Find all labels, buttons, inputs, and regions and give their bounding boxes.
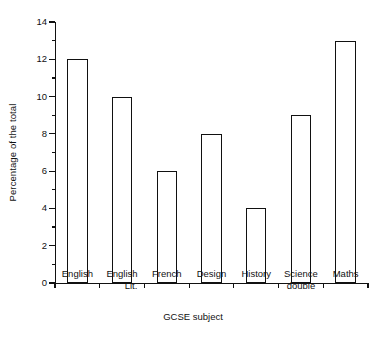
- y-axis-tick-minor: [52, 226, 56, 227]
- x-axis-tick-label-line: English: [62, 268, 93, 279]
- bar: [112, 97, 133, 283]
- bar: [201, 134, 222, 283]
- y-axis-tick-major: [49, 59, 55, 60]
- x-axis-tick-label-line: English: [106, 268, 137, 279]
- bar: [67, 59, 88, 283]
- x-axis-tick-label-line: Science: [284, 268, 318, 279]
- y-axis-tick-major: [49, 96, 55, 97]
- x-axis-tick: [54, 283, 55, 288]
- x-axis-title: GCSE subject: [0, 311, 386, 323]
- y-axis-tick-label: 10: [36, 92, 47, 102]
- y-axis-title: Percentage of the total: [6, 22, 20, 283]
- y-axis-tick-label: 0: [42, 278, 47, 288]
- x-axis-tick-label-line: French: [152, 268, 182, 279]
- y-axis-tick-minor: [52, 152, 56, 153]
- bar-chart-figure: Percentage of the total 02468101214 GCSE…: [0, 0, 386, 341]
- x-axis-tick-label: History: [234, 268, 279, 280]
- y-axis-tick-minor: [52, 264, 56, 265]
- y-axis-tick-minor: [52, 189, 56, 190]
- y-axis-tick-label: 6: [42, 166, 47, 176]
- x-axis-tick: [233, 283, 234, 288]
- y-axis-tick-label: 12: [36, 54, 47, 64]
- y-axis-tick-label: 14: [36, 17, 47, 27]
- x-axis-tick-label: EnglishLit.: [100, 268, 145, 291]
- y-axis-tick-label: 8: [42, 129, 47, 139]
- y-axis-tick-minor: [52, 77, 56, 78]
- y-axis-tick-label: 2: [42, 241, 47, 251]
- bar: [291, 115, 312, 283]
- x-axis-tick-label-line: Lit.: [100, 280, 145, 292]
- y-axis-tick-minor: [52, 40, 56, 41]
- x-axis-tick-label-line: Maths: [333, 268, 359, 279]
- x-axis-tick: [367, 283, 368, 288]
- x-axis-tick-label: Maths: [323, 268, 368, 280]
- y-axis-tick-major: [49, 133, 55, 134]
- x-axis-tick-label-line: Design: [197, 268, 227, 279]
- y-axis-tick-major: [49, 171, 55, 172]
- y-axis-tick-major: [49, 245, 55, 246]
- y-axis-tick-major: [49, 208, 55, 209]
- x-axis-tick-label: Sciencedouble: [279, 268, 324, 291]
- x-axis-tick-label-line: History: [241, 268, 271, 279]
- x-axis-tick: [189, 283, 190, 288]
- y-axis-line: [55, 22, 56, 283]
- y-axis-tick-label: 4: [42, 203, 47, 213]
- x-axis-tick-label: Design: [189, 268, 234, 280]
- bar: [157, 171, 178, 283]
- x-axis-tick-label: French: [144, 268, 189, 280]
- y-axis-tick-major: [49, 21, 55, 22]
- x-axis-tick-label: English: [55, 268, 100, 280]
- bar: [335, 41, 356, 283]
- figure-caption-partial: [6, 331, 336, 341]
- y-axis-tick-minor: [52, 115, 56, 116]
- x-axis-tick-label-line: double: [279, 280, 324, 292]
- plot-area: 02468101214: [55, 22, 368, 283]
